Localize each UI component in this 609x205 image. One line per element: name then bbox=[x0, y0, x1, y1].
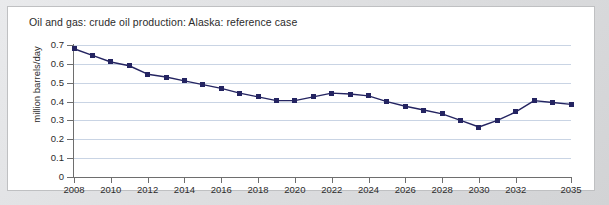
data-point-marker bbox=[237, 91, 242, 96]
x-axis-tick bbox=[258, 178, 259, 183]
x-axis-tick bbox=[74, 178, 75, 183]
plot-area bbox=[74, 45, 571, 177]
x-axis-tick-label: 2032 bbox=[496, 184, 536, 195]
x-axis-tick-label: 2014 bbox=[164, 184, 204, 195]
x-axis-tick bbox=[479, 178, 480, 183]
y-axis-tick-label: 0.5 bbox=[22, 77, 64, 88]
series-line bbox=[74, 45, 571, 177]
data-point-marker bbox=[182, 78, 187, 83]
data-point-marker bbox=[348, 92, 353, 97]
data-point-marker bbox=[127, 63, 132, 68]
x-axis-tick bbox=[221, 178, 222, 183]
x-axis-tick-label: 2026 bbox=[385, 184, 425, 195]
y-axis-tick-label: 0.7 bbox=[22, 39, 64, 50]
x-axis-tick bbox=[516, 178, 517, 183]
data-point-marker bbox=[200, 82, 205, 87]
x-axis-tick bbox=[369, 178, 370, 183]
x-axis-tick-label: 2016 bbox=[201, 184, 241, 195]
chart-title: Oil and gas: crude oil production: Alask… bbox=[29, 16, 297, 28]
data-point-marker bbox=[292, 98, 297, 103]
data-point-marker bbox=[219, 86, 224, 91]
x-axis-tick bbox=[295, 178, 296, 183]
x-axis-tick bbox=[184, 178, 185, 183]
data-point-marker bbox=[90, 53, 95, 58]
data-point-marker bbox=[274, 98, 279, 103]
y-axis-tick-label: 0.2 bbox=[22, 133, 64, 144]
data-point-marker bbox=[108, 59, 113, 64]
y-axis-tick-label: 0 bbox=[22, 171, 64, 182]
data-point-marker bbox=[513, 109, 518, 114]
data-point-marker bbox=[440, 111, 445, 116]
chart-frame: Oil and gas: crude oil production: Alask… bbox=[0, 0, 609, 205]
data-point-marker bbox=[366, 93, 371, 98]
y-axis-tick-label: 0.3 bbox=[22, 114, 64, 125]
data-point-marker bbox=[421, 108, 426, 113]
x-axis-tick-label: 2010 bbox=[91, 184, 131, 195]
data-point-marker bbox=[72, 46, 77, 51]
x-axis-tick-label: 2018 bbox=[238, 184, 278, 195]
x-axis-tick bbox=[332, 178, 333, 183]
data-point-marker bbox=[145, 72, 150, 77]
x-axis-tick-label: 2030 bbox=[459, 184, 499, 195]
y-axis-tick-label: 0.6 bbox=[22, 58, 64, 69]
x-axis-tick bbox=[442, 178, 443, 183]
y-axis-tick-label: 0.1 bbox=[22, 152, 64, 163]
data-point-marker bbox=[384, 99, 389, 104]
y-axis-tick-label: 0.4 bbox=[22, 96, 64, 107]
data-point-marker bbox=[550, 100, 555, 105]
x-axis-tick bbox=[405, 178, 406, 183]
data-point-marker bbox=[329, 91, 334, 96]
x-axis-tick bbox=[148, 178, 149, 183]
data-point-marker bbox=[403, 104, 408, 109]
data-point-marker bbox=[569, 102, 574, 107]
x-axis-tick-label: 2020 bbox=[275, 184, 315, 195]
x-axis-tick bbox=[571, 178, 572, 183]
x-axis-tick-label: 2012 bbox=[128, 184, 168, 195]
data-point-marker bbox=[311, 94, 316, 99]
data-point-marker bbox=[495, 118, 500, 123]
x-axis-tick-label: 2008 bbox=[54, 184, 94, 195]
x-axis-tick-label: 2024 bbox=[349, 184, 389, 195]
x-axis-tick-label: 2022 bbox=[312, 184, 352, 195]
x-axis-tick-label: 2028 bbox=[422, 184, 462, 195]
data-point-marker bbox=[532, 98, 537, 103]
chart-panel: Oil and gas: crude oil production: Alask… bbox=[7, 6, 595, 191]
x-axis-tick-label: 2035 bbox=[551, 184, 591, 195]
data-point-marker bbox=[458, 118, 463, 123]
data-point-marker bbox=[256, 94, 261, 99]
x-axis-tick bbox=[111, 178, 112, 183]
data-point-marker bbox=[164, 75, 169, 80]
data-point-marker bbox=[476, 125, 481, 130]
